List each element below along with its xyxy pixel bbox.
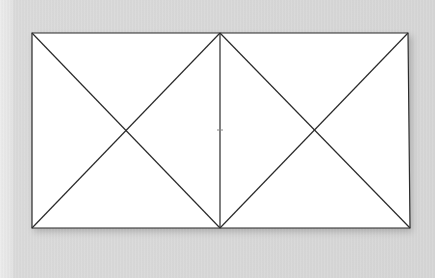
diagram-canvas xyxy=(0,0,435,278)
